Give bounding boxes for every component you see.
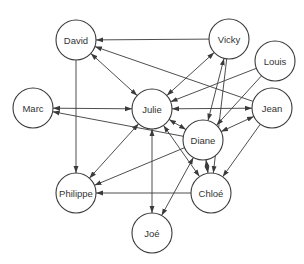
node-david: David xyxy=(56,20,96,60)
edge-diane-chloe xyxy=(206,160,208,173)
edge-diane-philippe xyxy=(95,148,185,186)
node-marc: Marc xyxy=(13,88,53,128)
node-julie: Julie xyxy=(132,89,172,129)
node-label: Jean xyxy=(262,103,283,114)
network-diagram: DavidVickyLouisMarcJulieJeanDianePhilipp… xyxy=(0,0,304,264)
node-philippe: Philippe xyxy=(56,173,96,213)
node-vicky: Vicky xyxy=(209,19,249,59)
edge-vicky-diane xyxy=(208,58,224,120)
node-label: Diane xyxy=(191,135,216,146)
node-label: David xyxy=(64,35,88,46)
node-chloe: Chloé xyxy=(191,173,231,213)
node-label: Marc xyxy=(22,103,43,114)
node-label: Julie xyxy=(142,104,162,115)
edge-david-julie xyxy=(91,53,137,95)
node-jean: Jean xyxy=(252,88,292,128)
edge-louis-julie xyxy=(171,68,257,101)
edge-jean-chloe xyxy=(223,124,261,177)
edge-vicky-david xyxy=(96,39,209,40)
edge-marc-julie xyxy=(53,108,132,109)
node-diane: Diane xyxy=(183,120,223,160)
node-label: Philippe xyxy=(59,188,93,199)
node-louis: Louis xyxy=(255,41,295,81)
nodes-layer: DavidVickyLouisMarcJulieJeanDianePhilipp… xyxy=(13,19,295,253)
edge-jean-diane xyxy=(221,116,254,131)
edge-julie-jean xyxy=(172,108,252,109)
node-label: Joé xyxy=(144,228,159,239)
node-label: Chloé xyxy=(199,188,224,199)
node-label: Vicky xyxy=(218,34,241,45)
edge-julie-diane xyxy=(169,119,186,129)
node-label: Louis xyxy=(264,56,287,67)
edge-diane-joe xyxy=(162,158,194,216)
node-joe: Joé xyxy=(132,213,172,253)
